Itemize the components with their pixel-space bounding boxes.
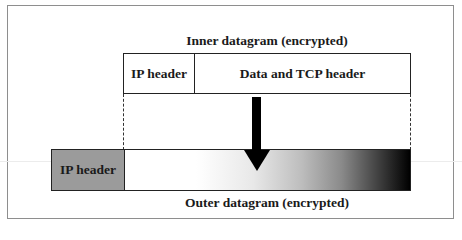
outer-datagram-box: IP header [51, 149, 411, 191]
inner-data-tcp-header-cell: Data and TCP header [195, 54, 410, 93]
outer-datagram-title: Outer datagram (encrypted) [123, 195, 411, 211]
inner-datagram-box: IP header Data and TCP header [123, 53, 411, 94]
outer-ip-header-cell: IP header [52, 150, 125, 190]
inner-ip-header-cell: IP header [124, 54, 195, 93]
down-arrow-icon [244, 97, 270, 171]
left-dashed-guide [123, 94, 124, 150]
inner-datagram-title: Inner datagram (encrypted) [123, 33, 411, 49]
right-dashed-guide [410, 94, 411, 150]
